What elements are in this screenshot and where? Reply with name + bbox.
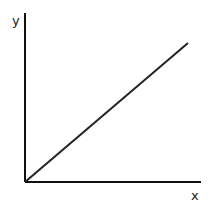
y-axis-label: y <box>12 13 20 28</box>
linear-data-line <box>25 43 188 182</box>
linear-graph-diagram: y x <box>0 0 213 210</box>
x-axis-label: x <box>191 188 199 203</box>
